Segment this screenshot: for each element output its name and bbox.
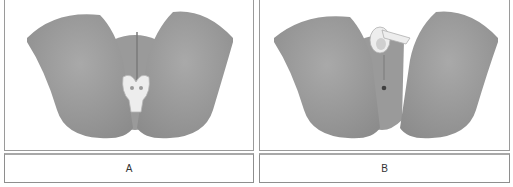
panel-label-a-text: A xyxy=(126,163,133,174)
panel-label-a: A xyxy=(4,153,254,183)
figure-panel-b xyxy=(259,0,510,151)
anatomical-model-illustration-b xyxy=(260,0,511,151)
marker-dot xyxy=(382,86,387,91)
panel-label-b: B xyxy=(259,153,510,183)
figure-panel-a xyxy=(4,0,254,151)
anatomical-model-illustration-a xyxy=(5,0,255,151)
panel-label-b-text: B xyxy=(381,163,388,174)
